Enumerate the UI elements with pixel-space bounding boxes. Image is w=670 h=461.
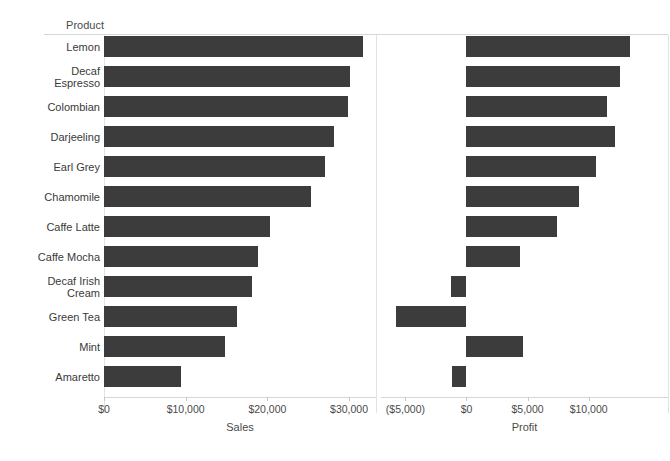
bar-sales[interactable] xyxy=(104,276,252,297)
bar-sales[interactable] xyxy=(104,96,348,117)
axis-tick-label: $5,000 xyxy=(511,403,543,415)
axis-tick-label: $10,000 xyxy=(167,403,205,415)
row-label-column: LemonDecaf EspressoColombianDarjeelingEa… xyxy=(0,35,100,396)
bar-profit[interactable] xyxy=(466,336,522,357)
row-label[interactable]: Green Tea xyxy=(0,311,100,323)
bar-sales[interactable] xyxy=(104,36,363,57)
bar-profit[interactable] xyxy=(466,156,595,177)
bar-sales[interactable] xyxy=(104,186,311,207)
bar-sales[interactable] xyxy=(104,306,237,327)
axis-tick xyxy=(104,397,105,401)
row-label[interactable]: Lemon xyxy=(0,41,100,53)
bar-sales[interactable] xyxy=(104,366,181,387)
bar-sales[interactable] xyxy=(104,246,258,267)
row-label[interactable]: Amaretto xyxy=(0,371,100,383)
axis-title-profit[interactable]: Profit xyxy=(512,421,538,433)
row-label[interactable]: Decaf Espresso xyxy=(0,65,100,89)
axis-line-profit xyxy=(381,397,668,398)
axis-tick-label: ($5,000) xyxy=(386,403,425,415)
row-label[interactable]: Mint xyxy=(0,341,100,353)
axis-tick-label: $10,000 xyxy=(570,403,608,415)
row-label[interactable]: Earl Grey xyxy=(0,161,100,173)
bar-profit[interactable] xyxy=(466,246,520,267)
row-label[interactable]: Caffe Latte xyxy=(0,221,100,233)
product-field-caption[interactable]: Product xyxy=(0,19,104,31)
visualization-canvas: Product LemonDecaf EspressoColombianDarj… xyxy=(0,0,670,461)
bar-profit[interactable] xyxy=(466,96,606,117)
bar-profit[interactable] xyxy=(466,126,615,147)
axis-tick xyxy=(589,397,590,401)
bar-profit[interactable] xyxy=(451,276,467,297)
axis-tick xyxy=(528,397,529,401)
axis-tick-label: $0 xyxy=(98,403,110,415)
axis-tick xyxy=(466,397,467,401)
axis-line-sales xyxy=(104,397,376,398)
bar-profit[interactable] xyxy=(466,216,556,237)
axis-tick xyxy=(405,397,406,401)
bar-profit[interactable] xyxy=(466,36,630,57)
bar-profit[interactable] xyxy=(466,186,578,207)
axis-tick-label: $20,000 xyxy=(248,403,286,415)
row-label[interactable]: Darjeeling xyxy=(0,131,100,143)
axis-tick-label: $30,000 xyxy=(330,403,368,415)
bar-sales[interactable] xyxy=(104,156,325,177)
axis-title-sales[interactable]: Sales xyxy=(226,421,254,433)
axis-tick xyxy=(186,397,187,401)
bar-profit[interactable] xyxy=(452,366,467,387)
bar-profit[interactable] xyxy=(466,66,620,87)
bar-profit[interactable] xyxy=(396,306,467,327)
row-label[interactable]: Decaf Irish Cream xyxy=(0,275,100,299)
pane-edge-profit-right xyxy=(668,35,669,413)
row-label[interactable]: Chamomile xyxy=(0,191,100,203)
bar-sales[interactable] xyxy=(104,66,350,87)
bar-sales[interactable] xyxy=(104,126,334,147)
bar-sales[interactable] xyxy=(104,336,225,357)
pane-edge-sales-right xyxy=(376,35,377,413)
row-label[interactable]: Caffe Mocha xyxy=(0,251,100,263)
row-label[interactable]: Colombian xyxy=(0,101,100,113)
bar-sales[interactable] xyxy=(104,216,270,237)
axis-tick xyxy=(267,397,268,401)
axis-tick-label: $0 xyxy=(461,403,473,415)
axis-tick xyxy=(349,397,350,401)
